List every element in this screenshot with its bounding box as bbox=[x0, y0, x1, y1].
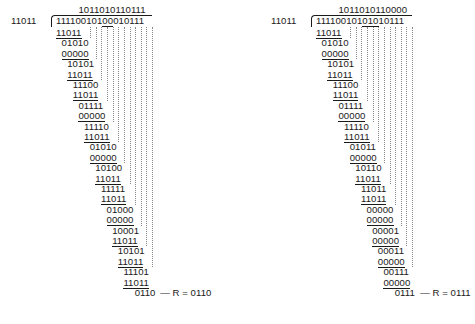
partial-remainder-row: 01011 bbox=[350, 142, 376, 152]
guide-line bbox=[373, 27, 374, 122]
guide-line bbox=[124, 27, 125, 163]
right-division: 1011010110000110111111001010101011111011… bbox=[250, 0, 475, 324]
guide-line bbox=[141, 27, 142, 226]
dividend-marked-digits: 00 bbox=[102, 15, 113, 27]
guide-line bbox=[406, 27, 407, 246]
remainder-row: 0111 bbox=[395, 288, 415, 298]
partial-remainder-row: 10100 bbox=[95, 163, 122, 173]
guide-line bbox=[356, 27, 357, 59]
guide-line bbox=[146, 27, 147, 246]
left-division: 1011010110111110111111001010001011111011… bbox=[0, 0, 231, 324]
partial-remainder-row: 10101 bbox=[118, 246, 145, 256]
partial-remainder-row: 11101 bbox=[123, 267, 149, 277]
remainder-label: — R = 0110 bbox=[160, 288, 211, 298]
guide-line bbox=[401, 27, 402, 226]
guide-line bbox=[101, 27, 102, 80]
divisor: 11011 bbox=[11, 16, 37, 26]
guide-line bbox=[90, 27, 91, 38]
partial-remainder-row: 10101 bbox=[67, 59, 94, 69]
partial-remainder-row: 01010 bbox=[90, 142, 117, 152]
guide-line bbox=[113, 27, 114, 122]
guide-line bbox=[130, 27, 131, 184]
guide-line bbox=[412, 27, 413, 267]
divisor: 11011 bbox=[271, 16, 297, 26]
guide-line bbox=[118, 27, 119, 142]
dividend: 11110010100010111 bbox=[56, 16, 144, 26]
dividend: 11110010101010111 bbox=[316, 16, 404, 26]
guide-line bbox=[96, 27, 97, 59]
guide-line bbox=[367, 27, 368, 101]
dividend-marked-digits: 010 bbox=[362, 15, 378, 27]
guide-line bbox=[390, 27, 391, 184]
partial-remainder-row: 10110 bbox=[355, 163, 381, 173]
guide-line bbox=[378, 27, 379, 142]
partial-remainder-row: 00011 bbox=[378, 246, 404, 256]
partial-remainder-row: 10101 bbox=[327, 59, 354, 69]
partial-remainder-row: 00111 bbox=[383, 267, 409, 277]
partial-remainder-row: 01010 bbox=[62, 38, 89, 48]
guide-line bbox=[395, 27, 396, 205]
remainder-label: — R = 0111 bbox=[420, 288, 471, 298]
partial-remainder-row: 01010 bbox=[322, 38, 349, 48]
guide-line bbox=[152, 27, 153, 267]
guide-line bbox=[135, 27, 136, 205]
guide-line bbox=[384, 27, 385, 163]
guide-line bbox=[350, 27, 351, 38]
guide-line bbox=[361, 27, 362, 80]
guide-line bbox=[107, 27, 108, 101]
remainder-row: 0110 bbox=[135, 288, 156, 298]
